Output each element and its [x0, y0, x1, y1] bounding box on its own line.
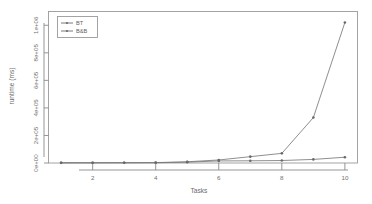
data-point: [60, 162, 63, 165]
chart-background: [0, 0, 372, 204]
data-point: [91, 162, 94, 165]
y-tick-label: 6e+05: [32, 71, 39, 89]
y-axis-title: runtime (ms): [8, 68, 16, 105]
data-point: [312, 116, 315, 119]
runtime-line-chart: 0e+002e+054e+056e+058e+051e+06 runtime (…: [0, 0, 372, 204]
x-tick-label: 4: [154, 174, 158, 181]
y-tick-label: 2e+05: [32, 126, 39, 144]
data-point: [249, 155, 252, 158]
chart-figure: 0e+002e+054e+056e+058e+051e+06 runtime (…: [0, 0, 372, 204]
legend-marker-bb: [66, 30, 68, 32]
chart-legend: BT B&B: [58, 17, 98, 38]
data-point: [249, 160, 252, 163]
data-point: [344, 21, 347, 24]
y-tick-label: 8e+05: [32, 44, 39, 62]
data-point: [217, 160, 220, 163]
data-point: [344, 156, 347, 159]
data-point: [154, 161, 157, 164]
legend-marker-bt: [66, 22, 68, 24]
data-point: [123, 161, 126, 164]
y-tick-label: 4e+05: [32, 99, 39, 117]
x-tick-label: 2: [91, 174, 95, 181]
x-tick-label: 6: [217, 174, 221, 181]
y-tick-label: 1e+06: [32, 16, 39, 34]
data-point: [281, 159, 284, 162]
y-tick-label: 0e+00: [32, 154, 39, 172]
x-tick-label: 10: [341, 174, 348, 181]
legend-label-bb: B&B: [76, 28, 87, 34]
legend-label-bt: BT: [76, 20, 84, 26]
data-point: [281, 152, 284, 155]
x-tick-label: 8: [280, 174, 284, 181]
data-point: [186, 161, 189, 164]
data-point: [312, 158, 315, 161]
x-axis-title: Tasks: [191, 187, 209, 194]
